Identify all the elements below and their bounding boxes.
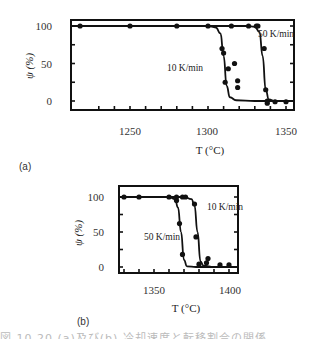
chart-b-annotation-50kmin: 50 K/min bbox=[144, 232, 180, 242]
chart-a-y-label-100: 100 bbox=[36, 20, 53, 32]
data-point bbox=[192, 201, 197, 206]
chart-b-y-axis-title: ψ (%) bbox=[72, 220, 85, 246]
data-point bbox=[272, 99, 277, 104]
data-point bbox=[193, 234, 198, 239]
panel-label-a: (a) bbox=[19, 161, 31, 172]
chart-b-x-label-1350: 1350 bbox=[143, 284, 166, 296]
data-point bbox=[127, 23, 132, 28]
chart-a-y-label-0: 0 bbox=[47, 95, 53, 107]
data-point bbox=[136, 194, 141, 199]
data-point bbox=[265, 98, 270, 103]
data-point bbox=[262, 46, 267, 51]
data-point bbox=[223, 80, 228, 85]
data-point bbox=[166, 194, 171, 199]
data-point bbox=[255, 23, 260, 28]
figure-canvas: 100 50 0 ψ (%) 1250 1300 1350 T (°C) 10 … bbox=[0, 0, 313, 339]
data-point bbox=[180, 252, 185, 257]
chart-b-y-label-0: 0 bbox=[99, 261, 105, 273]
data-point bbox=[226, 262, 231, 267]
data-point bbox=[283, 99, 288, 104]
panel-label-b: (b) bbox=[77, 316, 89, 327]
chart-a-x-label-1300: 1300 bbox=[196, 125, 219, 137]
chart-a-annotation-10kmin: 10 K/min bbox=[167, 63, 203, 73]
chart-a-y-axis-title: ψ (%) bbox=[23, 53, 36, 79]
chart-a-annotation-50kmin: 50 K/min bbox=[258, 29, 294, 39]
data-point bbox=[229, 23, 234, 28]
data-point bbox=[205, 256, 210, 261]
data-point bbox=[221, 50, 226, 55]
data-point bbox=[219, 46, 224, 51]
data-point bbox=[246, 23, 251, 28]
chart-a-x-axis-title: T (°C) bbox=[196, 144, 225, 157]
chart-b-y-label-50: 50 bbox=[93, 226, 105, 238]
chart-b-x-axis-title: T (°C) bbox=[172, 302, 201, 315]
chart-a: 100 50 0 ψ (%) 1250 1300 1350 T (°C) 10 … bbox=[23, 20, 298, 157]
figure-caption: 図 10.20 (a)及び(b) 冷却速度と転移割合の関係 bbox=[0, 331, 313, 339]
chart-b-x-label-1400: 1400 bbox=[219, 284, 242, 296]
data-point bbox=[226, 66, 231, 71]
data-point bbox=[263, 87, 268, 92]
chart-a-y-label-50: 50 bbox=[41, 58, 53, 70]
data-point bbox=[121, 194, 126, 199]
data-point bbox=[77, 23, 82, 28]
chart-a-x-label-1250: 1250 bbox=[119, 125, 142, 137]
data-point bbox=[205, 23, 210, 28]
data-point bbox=[232, 61, 237, 66]
data-point bbox=[174, 198, 179, 203]
data-point bbox=[177, 221, 182, 226]
data-point bbox=[235, 85, 240, 90]
chart-a-x-label-1350: 1350 bbox=[275, 125, 298, 137]
chart-b-annotation-10kmin: 10 K/min bbox=[207, 202, 243, 212]
data-point bbox=[217, 262, 222, 267]
data-point bbox=[235, 78, 240, 83]
data-point bbox=[196, 262, 201, 267]
data-point bbox=[174, 23, 179, 28]
chart-b-y-label-100: 100 bbox=[88, 191, 105, 203]
chart-b: 100 50 0 ψ (%) 1350 1400 T (°C) 50 K/min… bbox=[72, 186, 243, 315]
data-point bbox=[183, 194, 188, 199]
